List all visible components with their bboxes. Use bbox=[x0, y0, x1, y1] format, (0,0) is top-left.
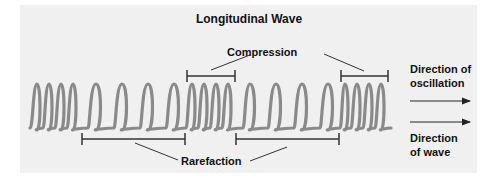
diagram-title: Longitudinal Wave bbox=[0, 12, 498, 26]
rarefaction-bracket-left bbox=[82, 133, 185, 145]
compression-bracket-right bbox=[341, 70, 388, 82]
rarefaction-leader-right bbox=[250, 147, 287, 161]
rarefaction-bracket-right bbox=[236, 133, 339, 145]
coil-path bbox=[30, 84, 391, 130]
direction-of-wave-line2: of wave bbox=[410, 145, 458, 159]
direction-of-oscillation-line2: oscillation bbox=[410, 76, 471, 90]
compression-bracket-left bbox=[187, 70, 235, 82]
direction-of-wave-line1: Direction bbox=[410, 131, 458, 145]
coil-spring bbox=[30, 84, 391, 130]
rarefaction-leader-left bbox=[135, 143, 178, 160]
compression-label: Compression bbox=[227, 46, 297, 58]
direction-of-oscillation-label: Direction of oscillation bbox=[410, 62, 471, 90]
compression-leader-right bbox=[324, 54, 364, 71]
rarefaction-label: Rarefaction bbox=[181, 155, 242, 167]
direction-of-oscillation-line1: Direction of bbox=[410, 62, 471, 76]
direction-of-wave-label: Direction of wave bbox=[410, 131, 458, 159]
